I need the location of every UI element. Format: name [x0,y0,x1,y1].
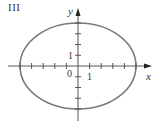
y-axis-arrow-icon [76,8,81,16]
y-axis-label: y [67,5,73,17]
x-axis-arrow-icon [144,64,152,69]
x-unit-label: 1 [87,71,92,82]
y-unit-label: 1 [68,50,73,61]
x-axis-label: x [145,70,151,82]
ellipse-chart: x y 0 1 1 [0,0,162,131]
origin-label: 0 [67,68,72,79]
